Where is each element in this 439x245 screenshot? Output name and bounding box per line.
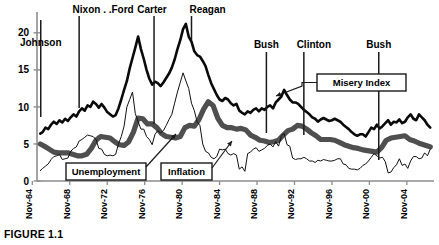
callout-unemployment-leader xyxy=(146,134,176,167)
callout-misery-index-leader xyxy=(276,83,317,97)
president-marker-carter-2-label: Carter xyxy=(137,4,167,15)
x-tick-label-Nov-96: Nov-96 xyxy=(324,189,334,219)
y-tick-label-15: 15 xyxy=(18,64,30,75)
president-marker-bush-4-label: Bush xyxy=(254,39,279,50)
x-tick-label-Nov-80: Nov-80 xyxy=(174,189,184,219)
y-tick-label-5: 5 xyxy=(23,139,29,150)
x-tick-label-Nov-68: Nov-68 xyxy=(62,189,72,219)
callout-misery-index-label: Misery Index xyxy=(333,77,391,88)
callout-inflation-label: Inflation xyxy=(168,166,205,177)
x-tick-label-Nov-64: Nov-64 xyxy=(24,189,34,219)
x-tick-label-Nov-92: Nov-92 xyxy=(286,189,296,219)
x-tick-label-Nov-00: Nov-00 xyxy=(361,189,371,219)
y-tick-label-0: 0 xyxy=(23,176,29,187)
x-tick-label-Nov-72: Nov-72 xyxy=(99,189,109,219)
x-tick-label-Nov-76: Nov-76 xyxy=(137,189,147,219)
y-tick-label-10: 10 xyxy=(18,102,30,113)
president-marker-reagan-3-label: Reagan xyxy=(189,4,225,15)
president-marker-clinton-5-label: Clinton xyxy=(297,39,331,50)
x-tick-label-Nov-04: Nov-04 xyxy=(399,189,409,219)
x-tick-label-Nov-84: Nov-84 xyxy=(212,189,222,219)
misery-index-chart: 05101520Nov-64Nov-68Nov-72Nov-76Nov-80No… xyxy=(0,0,439,228)
president-marker-bush-6-label: Bush xyxy=(366,39,391,50)
callout-unemployment-label: Unemployment xyxy=(72,166,141,177)
figure-container: 05101520Nov-64Nov-68Nov-72Nov-76Nov-80No… xyxy=(0,0,439,245)
president-marker-johnson-0-label: Johnson xyxy=(20,37,62,48)
president-marker-nixon-ford-1-label: Nixon . .Ford xyxy=(73,4,134,15)
x-tick-label-Nov-88: Nov-88 xyxy=(249,189,259,219)
figure-caption: FIGURE 1.1 xyxy=(4,228,63,240)
